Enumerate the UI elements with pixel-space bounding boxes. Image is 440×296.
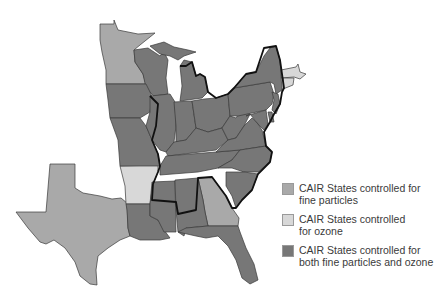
swatch-ozone [282, 214, 294, 226]
legend-label: CAIR States controlled for both fine par… [299, 244, 433, 268]
state-massachusetts [281, 64, 306, 79]
legend-item-fine-particles: CAIR States controlled for fine particle… [282, 182, 440, 206]
state-texas [16, 164, 130, 285]
state-florida [178, 226, 258, 284]
state-iowa [106, 84, 152, 118]
legend-label: CAIR States controlled for ozone [299, 213, 405, 237]
legend-label: CAIR States controlled for fine particle… [299, 182, 420, 206]
swatch-fine-particles [282, 183, 294, 195]
legend-item-ozone: CAIR States controlled for ozone [282, 213, 440, 237]
swatch-both [282, 245, 294, 257]
map-legend: CAIR States controlled for fine particle… [282, 182, 440, 275]
legend-item-both: CAIR States controlled for both fine par… [282, 244, 440, 268]
state-south-carolina [226, 172, 258, 208]
